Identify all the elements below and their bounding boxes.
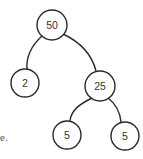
tree-diagram: 50 2 25 5 5 [0, 0, 143, 159]
cropped-text-fragment: e. [0, 131, 8, 143]
edge-right-leftchild [70, 98, 92, 121]
node-label: 5 [64, 129, 70, 141]
node-label: 2 [22, 77, 28, 89]
edge-right-rightchild [108, 98, 121, 122]
node-label: 5 [122, 130, 128, 142]
node-left: 2 [11, 69, 39, 97]
node-right-right: 5 [111, 122, 139, 150]
edge-root-right [63, 34, 96, 71]
edge-root-left [27, 36, 42, 69]
node-label: 50 [46, 19, 58, 31]
node-right: 25 [85, 71, 115, 101]
node-root: 50 [37, 10, 67, 40]
node-label: 25 [94, 80, 106, 92]
node-right-left: 5 [53, 121, 81, 149]
